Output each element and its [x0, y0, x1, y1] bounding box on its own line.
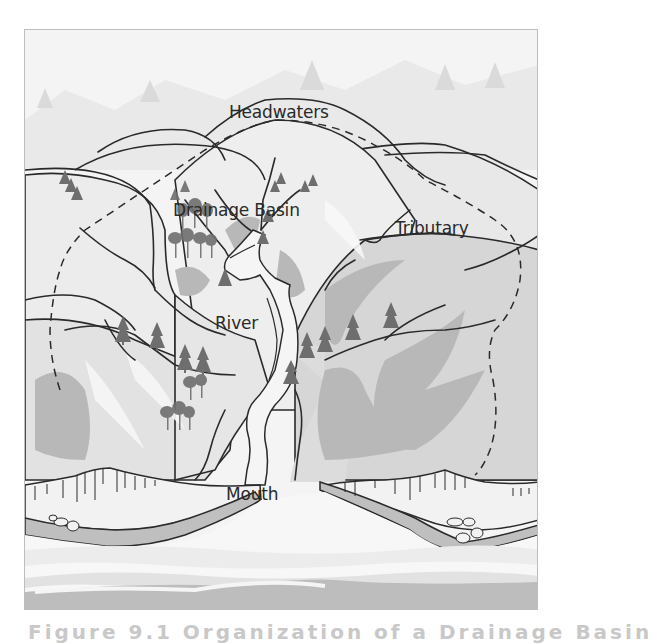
figure-caption: Figure 9.1 Organization of a Drainage Ba… [28, 620, 652, 644]
label-drainage-basin: Drainage Basin [173, 200, 300, 220]
label-mouth: Mouth [226, 484, 278, 504]
label-river: River [215, 313, 258, 333]
label-headwaters: Headwaters [229, 102, 329, 122]
drainage-basin-diagram: Headwaters Drainage Basin Tributary Rive… [24, 29, 538, 610]
label-tributary: Tributary [395, 218, 469, 238]
